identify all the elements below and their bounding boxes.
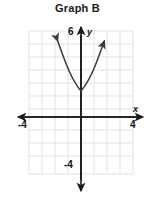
y-axis-tick-label-6: 6 [68,27,74,37]
x-axis-label: x [133,105,138,114]
y-axis-tick-label-neg4: -4 [64,160,73,170]
y-axis-label: y [87,28,92,37]
x-axis-tick-label-4: 4 [130,120,136,130]
graph-figure: Graph B [0,0,155,198]
coordinate-plane [0,0,155,198]
x-axis-tick-label-neg4: -4 [18,120,27,130]
